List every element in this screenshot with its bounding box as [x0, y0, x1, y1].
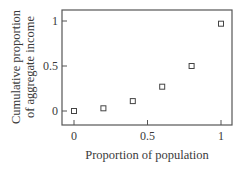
- square-marker-icon: [160, 84, 165, 89]
- y-tick-label: 1: [52, 14, 58, 28]
- y-axis-label: Cumulative proportion of aggregate incom…: [9, 9, 37, 124]
- plot-frame: [62, 10, 232, 125]
- square-marker-icon: [219, 21, 224, 26]
- data-points: [72, 21, 224, 113]
- x-tick-label: 0: [71, 129, 77, 143]
- square-marker-icon: [189, 64, 194, 69]
- x-axis-label: Proportion of population: [85, 148, 209, 162]
- y-axis-label-line-2: of aggregate income: [23, 16, 37, 118]
- y-tick-label: 0: [52, 104, 58, 118]
- x-tick-label: 1: [218, 129, 224, 143]
- lorenz-scatter-chart: 00.51 00.51 Proportion of population Cum…: [0, 0, 246, 170]
- x-tick-label: 0.5: [140, 129, 155, 143]
- y-axis-ticks: 00.51: [43, 14, 67, 118]
- square-marker-icon: [72, 109, 77, 114]
- square-marker-icon: [101, 106, 106, 111]
- square-marker-icon: [130, 99, 135, 104]
- y-tick-label: 0.5: [43, 59, 58, 73]
- y-axis-label-line-1: Cumulative proportion: [9, 9, 23, 124]
- x-axis-ticks: 00.51: [71, 120, 224, 143]
